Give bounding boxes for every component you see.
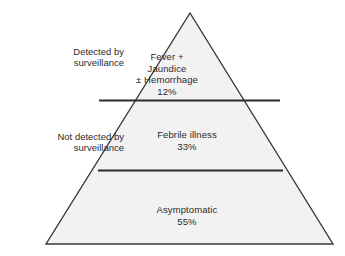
pyramid-figure: Fever + Jaundice ± Hemorrhage 12% Febril…: [0, 0, 345, 256]
side-label-not-detected: Not detected by surveillance: [4, 131, 124, 154]
pyramid-graphic: [0, 0, 345, 256]
side-label-detected: Detected by surveillance: [28, 46, 124, 69]
